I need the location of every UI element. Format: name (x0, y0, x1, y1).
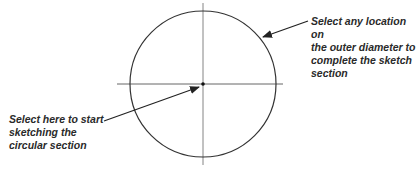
center-point (201, 82, 205, 86)
callout-outer-diameter: Select any location on the outer diamete… (311, 15, 418, 80)
arrow-to-outer-diameter (263, 21, 308, 37)
callout-center-point: Select here to start sketching the circu… (9, 113, 109, 152)
arrow-to-center-point (104, 87, 199, 121)
